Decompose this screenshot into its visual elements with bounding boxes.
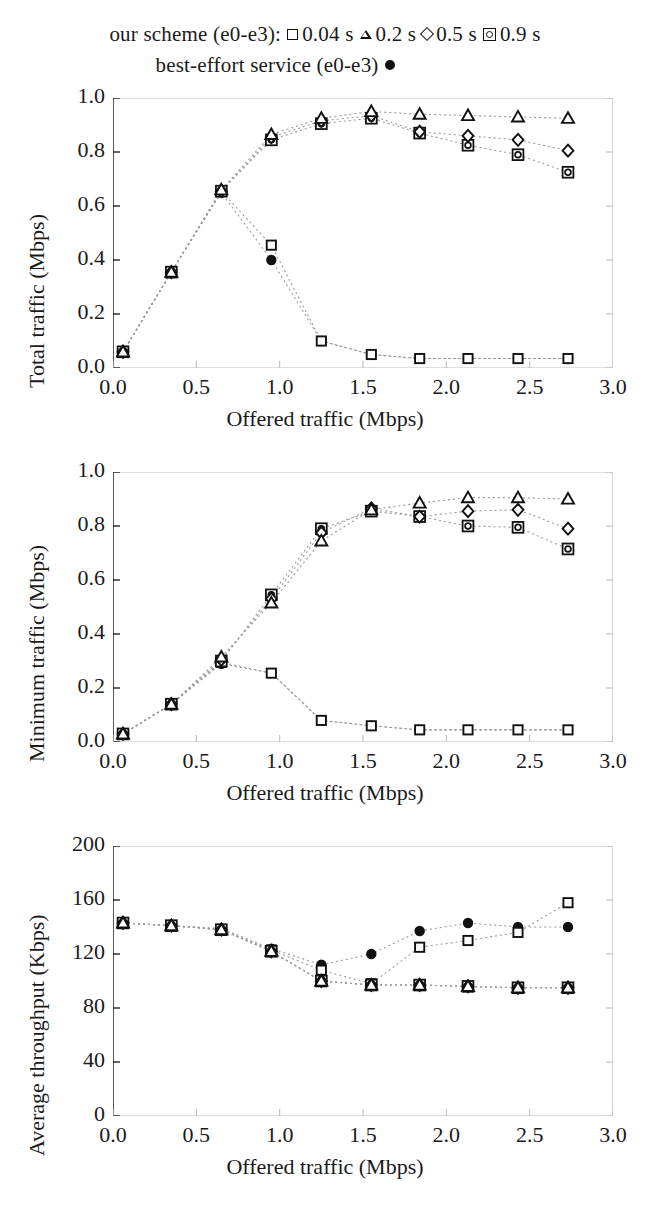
data-point-open-diamond bbox=[513, 504, 524, 516]
data-point-open-square bbox=[415, 725, 424, 734]
data-point-open-triangle bbox=[512, 111, 524, 122]
average-throughput-ytick: 160 bbox=[33, 885, 105, 911]
series-line-0-5-s bbox=[123, 923, 568, 988]
data-point-open-square bbox=[415, 943, 424, 952]
data-point-open-triangle bbox=[462, 492, 474, 503]
data-point-open-triangle bbox=[562, 493, 574, 504]
data-point-square-circle bbox=[563, 544, 574, 555]
total-traffic-ytick: 0.6 bbox=[33, 191, 105, 217]
chart1-canvas bbox=[113, 98, 613, 368]
average-throughput-xtick: 2.0 bbox=[416, 1122, 476, 1148]
total-traffic-xtick: 0.5 bbox=[166, 374, 226, 400]
chart1-x-axis-label: Offered traffic (Mbps) bbox=[0, 406, 650, 432]
data-point-open-triangle bbox=[462, 110, 474, 121]
data-point-open-square bbox=[513, 928, 522, 937]
total-traffic-ytick: 1.0 bbox=[33, 83, 105, 109]
data-point-open-diamond bbox=[563, 523, 574, 535]
data-point-filled-circle bbox=[563, 922, 573, 932]
chart-svg-average-throughput bbox=[113, 846, 613, 1116]
data-point-open-diamond bbox=[463, 505, 474, 517]
data-point-open-square bbox=[463, 725, 472, 734]
average-throughput-ytick: 40 bbox=[33, 1047, 105, 1073]
series-line-0-04-s bbox=[123, 903, 568, 984]
total-traffic-ytick: 0.2 bbox=[33, 299, 105, 325]
data-point-open-diamond bbox=[513, 134, 524, 146]
series-line-0-2-s bbox=[123, 923, 568, 988]
data-point-open-square bbox=[513, 725, 522, 734]
square-circle-icon bbox=[483, 28, 496, 41]
total-traffic-xtick: 2.5 bbox=[500, 374, 560, 400]
total-traffic-xtick: 0.0 bbox=[83, 374, 143, 400]
chart3-x-axis-label: Offered traffic (Mbps) bbox=[0, 1154, 650, 1180]
data-point-filled-circle bbox=[266, 255, 276, 265]
chart-total-traffic: Total traffic (Mbps) Offered traffic (Mb… bbox=[0, 88, 650, 440]
total-traffic-xtick: 2.0 bbox=[416, 374, 476, 400]
legend-our-scheme-prefix: our scheme (e0-e3): bbox=[109, 22, 281, 46]
chart-average-throughput: Average throughput (Kbps) Offered traffi… bbox=[0, 836, 650, 1196]
minimum-traffic-xtick: 0.5 bbox=[166, 748, 226, 774]
data-point-open-triangle bbox=[315, 535, 327, 546]
legend-line-best-effort: best-effort service (e0-e3) bbox=[0, 49, 650, 80]
average-throughput-ytick: 80 bbox=[33, 993, 105, 1019]
series-line-best-effort bbox=[123, 923, 568, 965]
total-traffic-xtick: 1.0 bbox=[250, 374, 310, 400]
legend-line-our-scheme: our scheme (e0-e3):0.04 s0.2 s0.5 s0.9 s bbox=[0, 18, 650, 49]
legend-label-3: 0.9 s bbox=[500, 22, 541, 46]
minimum-traffic-xtick: 2.0 bbox=[416, 748, 476, 774]
average-throughput-xtick: 3.0 bbox=[583, 1122, 643, 1148]
series-line-0-2-s bbox=[123, 112, 568, 352]
series-line-0-9-s bbox=[123, 118, 568, 352]
legend-label-1: 0.2 s bbox=[376, 22, 417, 46]
series-line-0-5-s bbox=[123, 508, 568, 733]
minimum-traffic-xtick: 2.5 bbox=[500, 748, 560, 774]
total-traffic-xtick: 1.5 bbox=[333, 374, 393, 400]
chart2-plot-area bbox=[113, 472, 613, 742]
chart2-canvas bbox=[113, 472, 613, 742]
chart3-canvas bbox=[113, 846, 613, 1116]
series-line-0-2-s bbox=[123, 498, 568, 734]
data-point-open-square bbox=[367, 721, 376, 730]
data-point-open-square bbox=[563, 354, 572, 363]
data-point-open-triangle bbox=[512, 492, 524, 503]
average-throughput-ytick: 120 bbox=[33, 939, 105, 965]
series-line-0-04-s bbox=[123, 191, 568, 358]
data-point-open-diamond bbox=[563, 145, 574, 157]
data-point-open-square bbox=[563, 725, 572, 734]
minimum-traffic-ytick: 0.4 bbox=[33, 619, 105, 645]
data-point-open-square bbox=[317, 336, 326, 345]
average-throughput-xtick: 0.5 bbox=[166, 1122, 226, 1148]
data-point-filled-circle bbox=[414, 926, 424, 936]
open-triangle-icon bbox=[360, 30, 372, 39]
open-diamond-icon bbox=[420, 27, 434, 41]
series-line-best-effort bbox=[123, 193, 568, 359]
data-point-open-square bbox=[513, 354, 522, 363]
data-point-open-square bbox=[267, 669, 276, 678]
minimum-traffic-ytick: 0.2 bbox=[33, 673, 105, 699]
data-point-open-square bbox=[267, 241, 276, 250]
data-point-square-circle bbox=[513, 149, 524, 160]
chart2-x-axis-label: Offered traffic (Mbps) bbox=[0, 780, 650, 806]
total-traffic-xtick: 3.0 bbox=[583, 374, 643, 400]
total-traffic-ytick: 0.8 bbox=[33, 137, 105, 163]
data-point-filled-circle bbox=[366, 949, 376, 959]
average-throughput-xtick: 1.5 bbox=[333, 1122, 393, 1148]
minimum-traffic-ytick: 1.0 bbox=[33, 457, 105, 483]
data-point-open-square bbox=[463, 936, 472, 945]
data-point-open-square bbox=[563, 898, 572, 907]
minimum-traffic-ytick: 0.6 bbox=[33, 565, 105, 591]
legend-label-0: 0.04 s bbox=[302, 22, 353, 46]
minimum-traffic-xtick: 1.0 bbox=[250, 748, 310, 774]
filled-circle-icon bbox=[385, 60, 395, 70]
chart-minimum-traffic: Minimum traffic (Mbps) Offered traffic (… bbox=[0, 462, 650, 814]
minimum-traffic-xtick: 3.0 bbox=[583, 748, 643, 774]
data-point-open-square bbox=[367, 350, 376, 359]
data-point-square-circle bbox=[563, 167, 574, 178]
average-throughput-xtick: 1.0 bbox=[250, 1122, 310, 1148]
data-point-open-square bbox=[415, 354, 424, 363]
minimum-traffic-ytick: 0.8 bbox=[33, 511, 105, 537]
chart1-plot-area bbox=[113, 98, 613, 368]
average-throughput-ytick: 200 bbox=[33, 831, 105, 857]
data-point-open-square bbox=[317, 716, 326, 725]
total-traffic-ytick: 0.4 bbox=[33, 245, 105, 271]
average-throughput-xtick: 0.0 bbox=[83, 1122, 143, 1148]
